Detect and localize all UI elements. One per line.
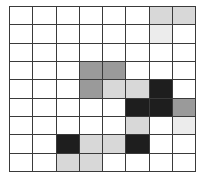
grid-cell: [125, 153, 148, 171]
grid-cell: [79, 153, 102, 171]
grid-cell: [56, 61, 79, 79]
grid-cell: [9, 6, 32, 24]
grid-cell: [149, 61, 172, 79]
grid-cell: [102, 98, 125, 116]
grid-cell: [149, 24, 172, 42]
grid-cell: [172, 134, 195, 152]
grid-cell: [172, 24, 195, 42]
grid-cell: [79, 61, 102, 79]
grid-cell: [102, 24, 125, 42]
grid-cell: [32, 43, 55, 61]
grid-cell: [172, 61, 195, 79]
grid-cell: [9, 24, 32, 42]
grid-cell: [149, 79, 172, 97]
grid-cell: [56, 24, 79, 42]
grid-cell: [79, 98, 102, 116]
grid-cell: [32, 24, 55, 42]
grid-cell: [102, 61, 125, 79]
grid-cell: [149, 153, 172, 171]
grid-cell: [56, 43, 79, 61]
shaded-grid: [9, 6, 196, 172]
grid-cell: [172, 116, 195, 134]
grid-cell: [125, 24, 148, 42]
grid-cell: [56, 6, 79, 24]
grid-cell: [32, 98, 55, 116]
grid-cell: [9, 153, 32, 171]
grid-cell: [32, 134, 55, 152]
grid-cell: [125, 116, 148, 134]
grid-cell: [32, 153, 55, 171]
grid-cell: [56, 116, 79, 134]
grid-cell: [172, 79, 195, 97]
grid-cell: [172, 43, 195, 61]
grid-cell: [56, 79, 79, 97]
grid-cell: [32, 116, 55, 134]
grid-cell: [125, 61, 148, 79]
grid-cell: [149, 116, 172, 134]
grid-cell: [56, 153, 79, 171]
grid-cell: [102, 153, 125, 171]
grid-cell: [172, 98, 195, 116]
grid-cell: [149, 134, 172, 152]
grid-cell: [79, 6, 102, 24]
grid-cell: [79, 79, 102, 97]
grid-cell: [172, 153, 195, 171]
grid-cell: [79, 43, 102, 61]
grid-cell: [102, 134, 125, 152]
grid-cell: [9, 98, 32, 116]
grid-cell: [9, 116, 32, 134]
grid-cell: [9, 43, 32, 61]
grid-cell: [102, 116, 125, 134]
grid-cell: [9, 79, 32, 97]
grid-cell: [149, 98, 172, 116]
grid-cell: [125, 43, 148, 61]
grid-cell: [125, 98, 148, 116]
grid-cell: [125, 6, 148, 24]
grid-cell: [9, 61, 32, 79]
grid-cell: [172, 6, 195, 24]
grid-cell: [79, 134, 102, 152]
grid-cell: [79, 116, 102, 134]
grid-cell: [149, 6, 172, 24]
grid-cell: [56, 134, 79, 152]
grid-cell: [32, 6, 55, 24]
grid-cell: [32, 61, 55, 79]
grid-cell: [125, 79, 148, 97]
grid-cell: [125, 134, 148, 152]
grid-cell: [102, 79, 125, 97]
grid-cell: [102, 6, 125, 24]
grid-cell: [9, 134, 32, 152]
grid-cell: [56, 98, 79, 116]
grid-cell: [32, 79, 55, 97]
grid-cell: [79, 24, 102, 42]
grid-cell: [102, 43, 125, 61]
grid-cell: [149, 43, 172, 61]
